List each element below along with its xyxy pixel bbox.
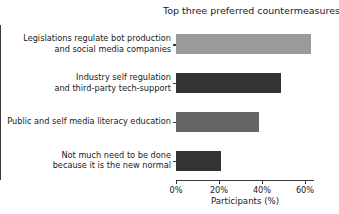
bar-1[interactable]	[176, 34, 311, 54]
category-label-1: Legislations regulate bot production and…	[4, 33, 171, 54]
x-tick-label-60pct: 60%	[296, 185, 314, 195]
category-tick-mark	[173, 161, 177, 162]
bar-chart-figure: Top three preferred countermeasures Legi…	[0, 0, 339, 214]
x-axis-title: Participants (%)	[176, 196, 314, 207]
category-label-3: Public and self media literacy education	[4, 116, 171, 127]
category-tick-mark	[173, 83, 177, 84]
category-label-2: Industry self regulation and third-party…	[4, 72, 171, 93]
category-tick-mark	[173, 44, 177, 45]
bar-2[interactable]	[176, 73, 281, 93]
category-tick-mark	[173, 122, 177, 123]
x-tick-mark	[262, 180, 263, 184]
x-tick-mark	[219, 180, 220, 184]
x-tick-label-0pct: 0%	[170, 185, 183, 195]
x-tick-mark	[176, 180, 177, 184]
bar-4[interactable]	[176, 151, 221, 171]
x-tick-label-20pct: 20%	[210, 185, 228, 195]
x-axis-line	[176, 180, 314, 181]
chart-title: Top three preferred countermeasures	[163, 5, 339, 17]
x-tick-mark	[305, 180, 306, 184]
category-label-4: Not much need to be done because it is t…	[4, 150, 171, 171]
bar-3[interactable]	[176, 112, 259, 132]
x-tick-label-40pct: 40%	[253, 185, 271, 195]
